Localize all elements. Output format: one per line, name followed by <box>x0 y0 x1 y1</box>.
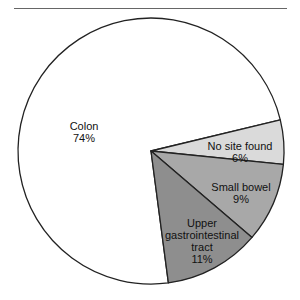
label-small-bowel: Small bowel 9% <box>211 181 270 205</box>
label-small-bowel-name: Small bowel <box>211 181 270 193</box>
label-small-bowel-pct: 9% <box>211 193 270 205</box>
label-colon-name: Colon <box>70 120 99 132</box>
label-upper-gi: Upper gastrointestinal tract 11% <box>165 217 239 265</box>
label-no-site: No site found 6% <box>208 140 273 164</box>
label-no-site-name: No site found <box>208 140 273 152</box>
label-upper-gi-pct: 11% <box>165 253 239 265</box>
label-upper-gi-line2: gastrointestinal <box>165 229 239 241</box>
label-upper-gi-line1: Upper <box>165 217 239 229</box>
label-no-site-pct: 6% <box>208 152 273 164</box>
label-colon-pct: 74% <box>70 132 99 144</box>
label-colon: Colon 74% <box>70 120 99 144</box>
label-upper-gi-line3: tract <box>165 241 239 253</box>
